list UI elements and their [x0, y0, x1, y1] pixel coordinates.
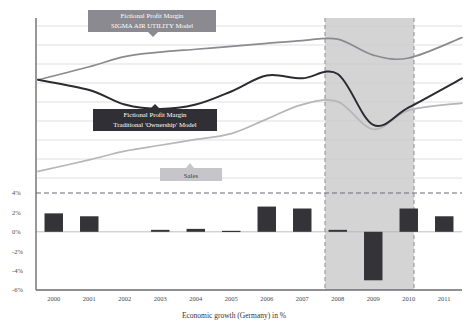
bar-2011 [435, 216, 453, 232]
annotation-line2: SIGMA AIR UTILITY Model [111, 22, 193, 29]
annotation-sales: Sales [160, 163, 222, 181]
bar-2010 [400, 209, 418, 232]
bar-2004 [187, 229, 205, 232]
x-tick-label: 2006 [260, 295, 274, 302]
chart-svg: 4%2%0%-2%-4%-6% 200020012002200320042005… [0, 0, 468, 335]
y-tick-label: -2% [12, 248, 23, 255]
bar-2008 [329, 230, 347, 232]
y-tick-label: 0% [12, 228, 21, 235]
annotation-pointer [150, 104, 160, 109]
bar-2009 [364, 232, 382, 280]
x-axis-caption: Economic growth (Germany) in % [182, 311, 286, 320]
annotation-line1: Sales [184, 172, 199, 179]
x-tick-label: 2001 [83, 295, 96, 302]
x-tick-label: 2010 [402, 295, 415, 302]
y-tick-label: 2% [12, 209, 21, 216]
x-tick-label: 2000 [47, 295, 60, 302]
x-tick-label: 2002 [118, 295, 131, 302]
bar-2006 [258, 207, 276, 232]
y-tick-label: -6% [12, 286, 23, 293]
x-tick-label: 2008 [331, 295, 344, 302]
bar-2000 [45, 213, 63, 231]
x-tick-label: 2004 [189, 295, 203, 302]
chart-container: 4%2%0%-2%-4%-6% 200020012002200320042005… [0, 0, 468, 335]
x-tick-label: 2005 [225, 295, 238, 302]
bar-2003 [151, 230, 169, 232]
bar-2005 [222, 231, 240, 232]
x-tick-label: 2003 [154, 295, 167, 302]
annotation-sigma-air-utility: Fictional Profit Margin SIGMA AIR UTILIT… [88, 10, 216, 37]
x-tick-label: 2011 [438, 295, 451, 302]
y-tick-labels: 4%2%0%-2%-4%-6% [12, 189, 23, 293]
annotation-line1: Fictional Profit Margin [121, 12, 185, 19]
bar-2007 [293, 209, 311, 232]
annotation-pointer [186, 163, 194, 168]
y-tick-label: 4% [12, 189, 21, 196]
annotation-pointer [148, 32, 158, 37]
annotation-line1: Fictional Profit Margin [124, 111, 188, 118]
x-tick-label: 2009 [367, 295, 380, 302]
y-tick-label: -4% [12, 267, 23, 274]
x-tick-label: 2007 [296, 295, 310, 302]
x-tick-labels: 2000200120022003200420052006200720082009… [47, 295, 450, 302]
bar-2001 [80, 216, 98, 232]
annotation-line2: Traditional 'Ownership' Model [113, 121, 196, 128]
annotation-traditional-ownership: Fictional Profit Margin Traditional 'Own… [93, 104, 217, 131]
